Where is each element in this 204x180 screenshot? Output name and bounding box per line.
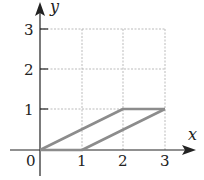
y-axis-label: y <box>49 0 60 16</box>
plot-canvas: 0 1 2 3 1 2 3 x y <box>0 0 204 180</box>
x-axis-label: x <box>188 125 197 144</box>
y-tick-1: 1 <box>24 101 34 119</box>
y-tick-2: 2 <box>24 61 34 79</box>
grid <box>40 29 165 150</box>
axes <box>10 8 190 176</box>
upper-edge <box>40 109 165 150</box>
y-tick-3: 3 <box>24 21 34 39</box>
parallelogram-plot: 0 1 2 3 1 2 3 x y <box>0 0 204 180</box>
lower-edge <box>40 109 165 150</box>
origin-label: 0 <box>26 152 36 170</box>
parallelogram <box>40 109 165 150</box>
x-tick-2: 2 <box>118 152 128 170</box>
x-tick-1: 1 <box>77 152 87 170</box>
x-tick-3: 3 <box>160 152 170 170</box>
